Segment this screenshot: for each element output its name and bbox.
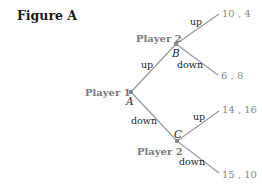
- edge-a-up: [131, 44, 176, 92]
- edge-label-c-down: down: [179, 156, 205, 167]
- node-letter-b: B: [171, 47, 180, 59]
- payoff-c-up: 14 , 16: [222, 104, 257, 115]
- edge-label-c-up: up: [193, 111, 205, 122]
- node-letter-a: A: [125, 95, 134, 107]
- payoff-b-up: 10 , 4: [222, 8, 251, 19]
- game-tree: Player 1 Player 2 Player 2 A B C up down…: [0, 0, 262, 184]
- player-label-c: Player 2: [137, 146, 183, 157]
- payoff-b-down: 6 , 8: [221, 70, 243, 81]
- player-label-b: Player 2: [136, 33, 182, 44]
- node-letter-c: C: [174, 128, 182, 140]
- edge-label-b-down: down: [177, 59, 203, 70]
- edge-label-a-up: up: [141, 59, 153, 70]
- edge-label-a-down: down: [131, 115, 157, 126]
- edge-label-b-up: up: [190, 16, 202, 27]
- player-label-a: Player 1: [85, 87, 131, 98]
- payoff-c-down: 15 , 10: [222, 169, 257, 180]
